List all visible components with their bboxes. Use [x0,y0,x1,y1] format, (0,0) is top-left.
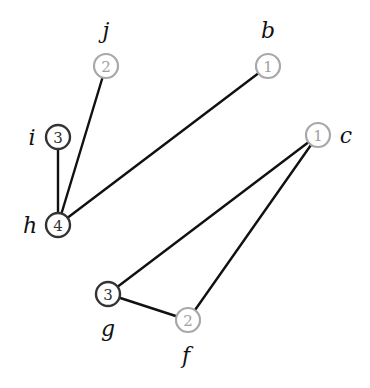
node-i: 3 [46,125,70,149]
node-value: 4 [53,217,63,235]
node-b: 1 [256,54,280,78]
node-c: 1 [306,123,330,147]
edge-c-g [108,135,318,294]
node-label-g: g [101,316,115,341]
edge-b-h [58,66,268,225]
node-label-i: i [28,125,35,150]
node-value: 2 [101,58,111,76]
node-value: 3 [53,129,63,147]
nodes-layer: 2131432 [46,54,330,332]
node-value: 1 [263,58,273,76]
node-label-b: b [261,18,275,43]
node-value: 1 [313,127,323,145]
node-value: 3 [103,286,113,304]
edges-layer [58,66,318,320]
node-label-f: f [180,343,194,368]
node-label-h: h [23,213,37,238]
graph-diagram: 2131432 jbichgf [0,0,370,388]
node-g: 3 [96,282,120,306]
edge-c-f [188,135,318,320]
node-value: 2 [183,312,193,330]
node-j: 2 [94,54,118,78]
node-h: 4 [46,213,70,237]
node-label-j: j [98,18,110,43]
node-label-c: c [340,123,352,148]
node-f: 2 [176,308,200,332]
